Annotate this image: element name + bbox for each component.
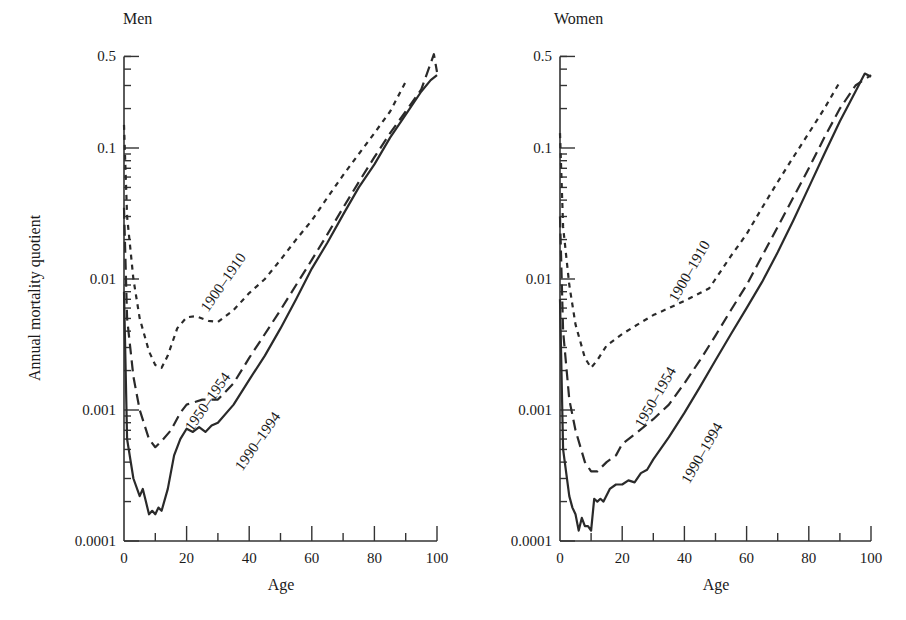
series-line-solid <box>124 75 437 514</box>
series-line-dotted <box>124 82 406 368</box>
x-tick-label: 80 <box>367 550 382 566</box>
y-tick-label: 0.0001 <box>75 533 116 549</box>
y-axis-title: Annual mortality quotient <box>26 214 44 381</box>
x-tick-label: 0 <box>120 550 128 566</box>
series-label: 1990–1994 <box>678 419 726 486</box>
y-tick-label: 0.1 <box>97 140 116 156</box>
panel-men: Men Age 0204060801000.00010.0010.010.10.… <box>75 10 449 594</box>
y-tick-label: 0.001 <box>82 402 116 418</box>
series-line-dashed <box>560 75 871 471</box>
panel-title-men: Men <box>123 10 152 27</box>
x-tick-label: 40 <box>242 550 257 566</box>
y-tick-label: 0.01 <box>526 271 552 287</box>
x-tick-label: 60 <box>739 550 754 566</box>
series-label: 1950–1954 <box>631 363 679 430</box>
mortality-chart: Annual mortality quotient Men Age 020406… <box>0 0 906 620</box>
x-axis-title-men: Age <box>268 576 295 594</box>
y-tick-label: 0.5 <box>533 48 552 64</box>
panel-women: Women Age 0204060801000.00010.0010.010.1… <box>511 10 883 594</box>
series-line-dotted <box>560 82 840 368</box>
y-tick-label: 0.5 <box>97 48 116 64</box>
series-label: 1900–1910 <box>197 250 249 314</box>
x-tick-label: 20 <box>179 550 194 566</box>
x-tick-label: 60 <box>304 550 319 566</box>
x-axis-title-women: Age <box>703 576 730 594</box>
series-label: 1950–1954 <box>182 369 234 434</box>
y-tick-label: 0.001 <box>518 402 552 418</box>
x-tick-label: 0 <box>556 550 564 566</box>
x-tick-label: 100 <box>426 550 449 566</box>
y-tick-label: 0.1 <box>533 140 552 156</box>
series-label: 1900–1910 <box>666 238 714 304</box>
y-tick-label: 0.0001 <box>511 533 552 549</box>
x-tick-label: 40 <box>677 550 692 566</box>
x-tick-label: 100 <box>860 550 883 566</box>
x-tick-label: 20 <box>615 550 630 566</box>
series-label: 1990–1994 <box>232 409 284 474</box>
panel-title-women: Women <box>554 10 603 27</box>
x-tick-label: 80 <box>801 550 816 566</box>
y-tick-label: 0.01 <box>90 271 116 287</box>
